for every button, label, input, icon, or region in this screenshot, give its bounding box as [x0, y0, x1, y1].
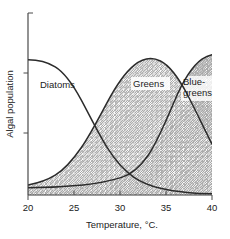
x-tick-label-2: 30 [115, 202, 126, 213]
series-label-diatoms: Diatoms [40, 79, 75, 90]
y-axis-title: Algal population [4, 70, 15, 138]
x-tick-label-0: 20 [23, 202, 34, 213]
x-axis-title: Temperature, °C. [86, 219, 158, 230]
x-tick-label-3: 35 [161, 202, 172, 213]
series-label-bluegreens-line2: greens [183, 87, 212, 98]
x-axis-tick-labels: 20 25 30 35 40 [23, 202, 218, 213]
x-tick-label-4: 40 [207, 202, 218, 213]
x-tick-label-1: 25 [69, 202, 80, 213]
chart-figure: 20 25 30 35 40 Temperature, °C. Algal po… [0, 0, 230, 239]
series-label-greens: Greens [133, 78, 164, 89]
series-label-bluegreens-line1: Blue- [183, 76, 205, 87]
chart-svg: 20 25 30 35 40 Temperature, °C. Algal po… [0, 0, 230, 239]
